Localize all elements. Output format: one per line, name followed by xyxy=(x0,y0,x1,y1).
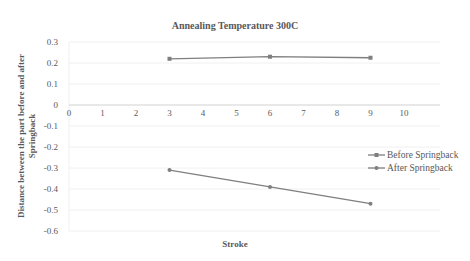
data-point-marker xyxy=(369,56,373,60)
y-tick-label: -0.4 xyxy=(44,184,59,194)
y-tick-label: -0.6 xyxy=(44,226,59,236)
y-axis-ticks: 0.30.20.10-0.1-0.2-0.3-0.4-0.5-0.6 xyxy=(44,37,59,236)
data-series xyxy=(168,55,373,206)
y-tick-label: -0.1 xyxy=(44,121,58,131)
x-tick-label: 1 xyxy=(100,108,105,118)
line-chart: Annealing Temperature 300C 0.30.20.10-0.… xyxy=(0,0,470,261)
y-tick-label: -0.2 xyxy=(44,142,58,152)
y-tick-label: 0.3 xyxy=(47,37,59,47)
x-tick-label: 3 xyxy=(167,108,172,118)
legend-marker xyxy=(375,166,379,170)
data-point-marker xyxy=(369,202,373,206)
y-tick-label: 0.2 xyxy=(47,58,58,68)
x-tick-label: 10 xyxy=(400,108,410,118)
x-tick-label: 0 xyxy=(67,108,72,118)
data-point-marker xyxy=(268,55,272,59)
y-tick-label: 0.1 xyxy=(47,79,58,89)
x-tick-label: 9 xyxy=(368,108,373,118)
legend-marker xyxy=(375,153,379,157)
x-axis-title: Stroke xyxy=(222,239,247,249)
x-tick-label: 6 xyxy=(268,108,273,118)
x-tick-label: 4 xyxy=(201,108,206,118)
y-axis-title-line2: Springback xyxy=(27,114,37,159)
x-axis-ticks: 012345678910 xyxy=(67,108,409,118)
x-tick-label: 8 xyxy=(335,108,340,118)
legend-label: Before Springback xyxy=(387,150,459,160)
legend-label: After Springback xyxy=(387,163,453,173)
legend: Before SpringbackAfter Springback xyxy=(368,150,459,173)
y-axis-title-line1: Distance between the part before and aft… xyxy=(16,54,26,218)
x-tick-label: 5 xyxy=(234,108,239,118)
data-point-marker xyxy=(168,168,172,172)
y-tick-label: -0.3 xyxy=(44,163,59,173)
data-point-marker xyxy=(268,185,272,189)
gridlines xyxy=(69,42,440,231)
y-tick-label: -0.5 xyxy=(44,205,59,215)
y-tick-label: 0 xyxy=(54,100,59,110)
data-point-marker xyxy=(168,57,172,61)
chart-title: Annealing Temperature 300C xyxy=(172,20,299,31)
x-tick-label: 7 xyxy=(301,108,306,118)
x-tick-label: 2 xyxy=(134,108,139,118)
